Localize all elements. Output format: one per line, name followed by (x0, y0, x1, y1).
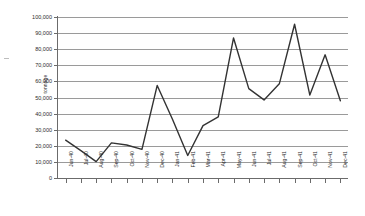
tonnage-series-line (66, 24, 341, 161)
data-series-layer (0, 0, 365, 216)
line-chart: tonnage 010,00020,00030,00040,00050,0006… (0, 0, 365, 216)
